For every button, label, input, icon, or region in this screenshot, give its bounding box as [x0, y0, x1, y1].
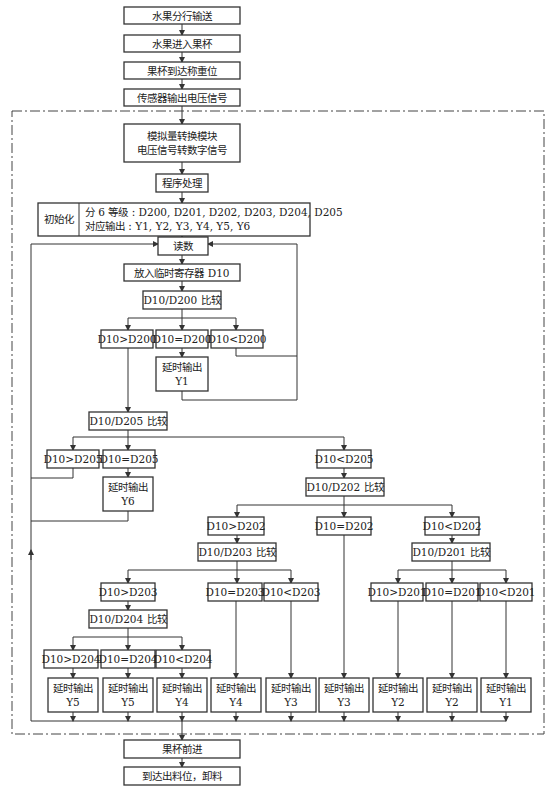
- node-lt-d204: D10<D204: [153, 650, 212, 668]
- node-output-5: 延时输出Y3: [266, 678, 316, 712]
- node-cup-at-weighing: 果杯到达称重位: [124, 62, 240, 79]
- node-adc-module: 模拟量转换模块电压信号转数字信号: [124, 124, 240, 162]
- node-output-9-label: 延时输出: [486, 682, 526, 694]
- flow-nodes: 水果分行输送水果进入果杯果杯到达称重位传感器输出电压信号模拟量转换模块电压信号转…: [38, 7, 536, 785]
- fruit-grading-flowchart: 水果分行输送水果进入果杯果杯到达称重位传感器输出电压信号模拟量转换模块电压信号转…: [0, 0, 551, 795]
- node-output-6: 延时输出Y3: [319, 678, 369, 712]
- node-eq-d204-label: D10=D204: [98, 653, 157, 665]
- node-output-3-label: Y4: [174, 696, 189, 708]
- node-output-2-label: Y5: [120, 696, 135, 708]
- node-cup-advance: 果杯前进: [124, 740, 240, 758]
- node-output-3: 延时输出Y4: [157, 678, 207, 712]
- node-eq-d205: D10=D205: [99, 450, 158, 468]
- node-eq-d204: D10=D204: [98, 650, 157, 668]
- node-eq-d200-label: D10=D200: [152, 333, 211, 345]
- node-output-1-label: Y5: [65, 696, 80, 708]
- node-compare-d201-label: D10/D201 比较: [412, 546, 490, 558]
- node-gt-d200: D10>D200: [97, 330, 156, 348]
- node-out-y1-first-label: Y1: [174, 375, 189, 387]
- node-eq-d202: D10=D202: [314, 517, 373, 535]
- node-output-8: 延时输出Y2: [427, 678, 477, 712]
- node-compare-d200: D10/D200 比较: [143, 291, 222, 309]
- node-fruit-into-cup: 水果进入果杯: [124, 35, 240, 52]
- node-gt-d200-label: D10>D200: [97, 333, 156, 345]
- node-store-d10: 放入临时寄存器 D10: [124, 264, 240, 281]
- node-eq-d205-label: D10=D205: [99, 453, 158, 465]
- node-gt-d202: D10>D202: [206, 517, 265, 535]
- node-read-label: 读数: [173, 240, 194, 252]
- node-gt-d205-label: D10>D205: [43, 453, 102, 465]
- node-output-5-label: Y3: [283, 696, 298, 708]
- connector: [31, 511, 128, 521]
- node-eq-d200: D10=D200: [152, 330, 211, 348]
- init-detail: 分 6 等级 : D200, D201, D202, D203, D204, D…: [85, 206, 343, 218]
- node-unload-label: 到达出料位，卸料: [142, 770, 223, 782]
- node-output-7: 延时输出Y2: [373, 678, 423, 712]
- node-output-5-label: 延时输出: [271, 682, 311, 694]
- node-output-4-label: 延时输出: [216, 682, 256, 694]
- init-label: 初始化: [44, 213, 75, 225]
- node-out-y1-first: 延时输出Y1: [156, 357, 208, 391]
- node-output-4-label: Y4: [228, 696, 243, 708]
- node-eq-d203: D10=D203: [205, 583, 264, 601]
- node-fruit-into-cup-label: 水果进入果杯: [152, 38, 213, 50]
- node-initialization: 初始化分 6 等级 : D200, D201, D202, D203, D204…: [38, 203, 343, 236]
- node-gt-d204: D10>D204: [41, 650, 100, 668]
- node-lt-d202: D10<D202: [422, 517, 481, 535]
- node-store-d10-label: 放入临时寄存器 D10: [134, 267, 229, 279]
- node-lt-d205: D10<D205: [314, 450, 373, 468]
- node-compare-d205: D10/D205 比较: [89, 412, 168, 430]
- node-gt-d201: D10>D201: [367, 583, 426, 601]
- node-output-8-label: 延时输出: [432, 682, 472, 694]
- node-gt-d203-label: D10>D203: [98, 586, 157, 598]
- node-compare-d203: D10/D203 比较: [198, 543, 277, 561]
- node-output-7-label: 延时输出: [378, 682, 418, 694]
- node-out-y6-label: 延时输出: [108, 481, 148, 493]
- node-lt-d200-label: D10<D200: [207, 333, 266, 345]
- node-adc-module-label: 电压信号转数字信号: [137, 144, 227, 156]
- node-lt-d201: D10<D201: [476, 583, 535, 601]
- node-gt-d202-label: D10>D202: [206, 520, 265, 532]
- node-output-3-label: 延时输出: [162, 682, 202, 694]
- node-output-2: 延时输出Y5: [103, 678, 153, 712]
- connector: [31, 468, 73, 478]
- node-out-y1-first-label: 延时输出: [162, 361, 202, 373]
- node-fruit-conveying-label: 水果分行输送: [152, 10, 213, 22]
- node-sensor-voltage-label: 传感器输出电压信号: [137, 92, 227, 104]
- node-adc-module-label: 模拟量转换模块: [147, 130, 218, 142]
- node-compare-d203-label: D10/D203 比较: [198, 546, 276, 558]
- node-gt-d201-label: D10>D201: [367, 586, 426, 598]
- node-cup-at-weighing-label: 果杯到达称重位: [147, 65, 218, 77]
- node-eq-d202-label: D10=D202: [314, 520, 373, 532]
- node-program: 程序处理: [156, 174, 208, 192]
- node-out-y6-label: Y6: [120, 495, 135, 507]
- node-compare-d202-label: D10/D202 比较: [306, 481, 384, 493]
- init-detail: 对应输出 : Y1, Y2, Y3, Y4, Y5, Y6: [85, 220, 251, 232]
- node-output-2-label: 延时输出: [108, 682, 148, 694]
- node-compare-d205-label: D10/D205 比较: [89, 415, 167, 427]
- node-eq-d201: D10=D201: [422, 583, 481, 601]
- node-lt-d202-label: D10<D202: [422, 520, 481, 532]
- node-compare-d200-label: D10/D200 比较: [143, 294, 221, 306]
- node-output-8-label: Y2: [444, 696, 459, 708]
- node-program-label: 程序处理: [162, 177, 203, 189]
- node-output-6-label: 延时输出: [324, 682, 364, 694]
- node-lt-d204-label: D10<D204: [153, 653, 212, 665]
- node-compare-d202: D10/D202 比较: [306, 478, 385, 496]
- node-lt-d201-label: D10<D201: [476, 586, 535, 598]
- node-compare-d204: D10/D204 比较: [89, 610, 168, 628]
- node-output-6-label: Y3: [336, 696, 351, 708]
- node-output-9: 延时输出Y1: [481, 678, 531, 712]
- node-lt-d205-label: D10<D205: [314, 453, 373, 465]
- node-gt-d203: D10>D203: [98, 583, 157, 601]
- node-lt-d203: D10<D203: [261, 583, 320, 601]
- node-out-y6: 延时输出Y6: [103, 477, 153, 511]
- node-sensor-voltage: 传感器输出电压信号: [124, 89, 240, 106]
- node-gt-d204-label: D10>D204: [41, 653, 100, 665]
- node-output-4: 延时输出Y4: [211, 678, 261, 712]
- node-gt-d205: D10>D205: [43, 450, 102, 468]
- node-output-7-label: Y2: [390, 696, 405, 708]
- node-read: 读数: [158, 237, 208, 255]
- node-compare-d204-label: D10/D204 比较: [89, 613, 167, 625]
- node-lt-d203-label: D10<D203: [261, 586, 320, 598]
